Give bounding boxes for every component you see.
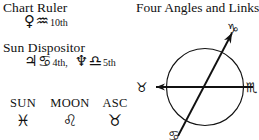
libra-icon: ♎ bbox=[89, 54, 102, 69]
cancer-icon: ♋ bbox=[38, 54, 51, 69]
taurus-icon-diagram: ♉ bbox=[136, 80, 148, 95]
cancer-icon-diagram: ♋ bbox=[168, 128, 180, 140]
big-three-column-moon: MOON ♌ bbox=[48, 96, 92, 131]
big-three-column-asc: ASC ♉ bbox=[93, 96, 137, 131]
chart-ruler-value-row: ♀ ♒ 10th bbox=[24, 14, 68, 29]
page-root: Chart Ruler ♀ ♒ 10th Sun Dispositor ♃ ♋ … bbox=[0, 0, 259, 140]
sun-label: SUN bbox=[1, 96, 45, 110]
asc-label: ASC bbox=[93, 96, 137, 110]
sun-dispositor-value-row: ♃ ♋ 4th, ♆ ♎ 5th bbox=[24, 54, 116, 69]
big-three-strip: SUN ♓ MOON ♌ ASC ♉ bbox=[0, 96, 136, 140]
jupiter-icon: ♃ bbox=[24, 54, 37, 69]
left-panel: Chart Ruler ♀ ♒ 10th Sun Dispositor ♃ ♋ … bbox=[0, 0, 136, 140]
taurus-icon: ♉ bbox=[93, 111, 137, 131]
four-angles-diagram: ♑ ♋ ♉ ♏ bbox=[136, 14, 259, 140]
pisces-icon: ♓ bbox=[1, 111, 45, 131]
chart-ruler-house: 10th bbox=[50, 18, 68, 28]
sun-dispositor-house-1: 4th, bbox=[52, 58, 67, 68]
aquarius-icon: ♒ bbox=[36, 14, 49, 29]
sun-dispositor-house-2: 5th bbox=[103, 58, 116, 68]
scorpio-icon: ♏ bbox=[246, 80, 258, 95]
neptune-icon: ♆ bbox=[75, 54, 88, 69]
moon-label: MOON bbox=[48, 96, 92, 110]
leo-icon: ♌ bbox=[48, 111, 92, 131]
capricorn-icon: ♑ bbox=[227, 21, 239, 36]
right-panel: Four Angles and Links ♑ ♋ ♉ ♏ bbox=[136, 0, 259, 140]
big-three-column-sun: SUN ♓ bbox=[1, 96, 45, 131]
diagram-title: Four Angles and Links bbox=[136, 0, 259, 15]
venus-icon: ♀ bbox=[24, 14, 35, 29]
